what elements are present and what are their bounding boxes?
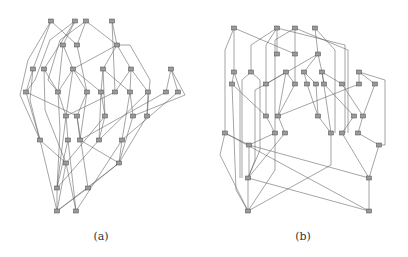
graph-edge	[166, 69, 171, 92]
graph-node	[101, 67, 106, 71]
edges-b	[220, 28, 385, 211]
graph-node	[284, 70, 289, 74]
graph-node	[247, 143, 252, 147]
graph-node	[110, 19, 115, 23]
graph-node	[329, 131, 334, 135]
graph-node	[223, 131, 228, 135]
graph-edge	[57, 116, 66, 188]
graph-node	[73, 19, 78, 23]
graph-node	[230, 82, 235, 86]
graph-node	[367, 209, 372, 213]
graph-edge	[58, 45, 63, 92]
graph-edge	[248, 133, 331, 211]
graph-node	[75, 114, 80, 118]
graph-edge	[358, 116, 363, 133]
graph-edge	[315, 28, 318, 54]
graph-edge	[248, 133, 275, 211]
graph-edge	[73, 69, 101, 92]
graph-edge	[232, 84, 266, 116]
graph-edge	[40, 140, 57, 211]
graph-node	[117, 161, 122, 165]
graph-node	[249, 70, 254, 74]
graph-node	[120, 138, 125, 142]
graph-edge	[76, 140, 122, 211]
graph-edge	[66, 92, 115, 116]
graph-node	[176, 90, 181, 94]
graph-node	[74, 209, 79, 213]
graph-node	[78, 138, 83, 142]
graph-edge	[249, 145, 369, 178]
graph-node	[66, 138, 71, 142]
graph-node	[85, 90, 90, 94]
graph-node	[61, 43, 66, 47]
graph-edge	[242, 72, 251, 178]
graph-edge	[278, 116, 285, 133]
nodes-b	[223, 26, 382, 213]
graph-node	[164, 90, 169, 94]
graph-node	[357, 70, 362, 74]
graph-node	[232, 26, 237, 30]
graph-node	[131, 114, 136, 118]
graph-node	[305, 82, 310, 86]
caption-a: (a)	[81, 230, 121, 243]
graph-node	[264, 82, 269, 86]
graph-node	[31, 67, 36, 71]
graph-node	[24, 90, 29, 94]
graph-node	[64, 161, 69, 165]
graph-node	[356, 131, 361, 135]
graph-edge	[112, 21, 115, 92]
graph-node	[246, 176, 251, 180]
graph-node	[314, 82, 319, 86]
graph-edge	[249, 133, 275, 145]
graph-panel-a	[20, 19, 185, 213]
graph-edge	[77, 45, 87, 92]
graph-edge	[26, 92, 40, 140]
graph-node	[275, 26, 280, 30]
graph-node	[115, 43, 120, 47]
graph-edge	[369, 145, 379, 178]
graph-node	[169, 67, 174, 71]
graph-node	[232, 70, 237, 74]
graph-edge	[26, 92, 77, 116]
graph-node	[367, 176, 372, 180]
graph-node	[340, 131, 345, 135]
graph-node	[316, 52, 321, 56]
graph-node	[352, 114, 357, 118]
graph-edge	[115, 69, 131, 92]
graph-edge	[63, 45, 73, 69]
graph-edge	[278, 84, 295, 116]
graph-node	[55, 209, 60, 213]
graph-node	[264, 114, 269, 118]
graph-edge	[73, 69, 87, 92]
graph-node	[273, 131, 278, 135]
graph-node	[357, 82, 362, 86]
graph-node	[97, 138, 102, 142]
graph-edge	[248, 84, 266, 178]
graph-node	[113, 90, 118, 94]
graph-node	[84, 19, 89, 23]
graph-node	[320, 70, 325, 74]
graph-edge	[359, 72, 385, 145]
graph-node	[38, 138, 43, 142]
graph-node	[246, 209, 251, 213]
graph-panel-b	[220, 26, 385, 213]
graph-edge	[363, 84, 375, 116]
graph-node	[128, 90, 133, 94]
graph-edge	[44, 21, 75, 69]
graph-edge	[57, 92, 60, 188]
graph-node	[129, 67, 134, 71]
graph-node	[293, 82, 298, 86]
graph-edge	[358, 133, 379, 145]
graph-edge	[220, 133, 248, 211]
graph-edge	[251, 28, 277, 72]
caption-b: (b)	[283, 230, 323, 243]
graph-edge	[266, 116, 275, 133]
graph-node	[283, 131, 288, 135]
graph-node	[64, 114, 69, 118]
graph-edge	[66, 116, 68, 140]
graph-edge	[324, 84, 354, 116]
graph-node	[293, 26, 298, 30]
graph-edge	[66, 163, 76, 211]
graph-node	[71, 67, 76, 71]
graph-node	[145, 114, 150, 118]
